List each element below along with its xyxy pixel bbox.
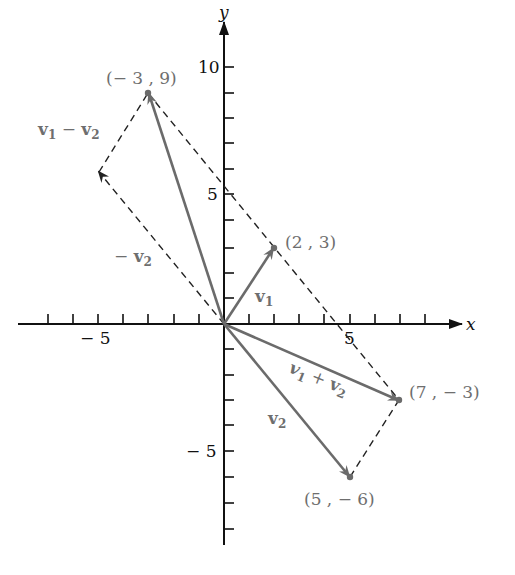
vector-v2 [224,324,349,476]
diff-side-dashed [99,93,148,172]
label-v1-minus-v2: v1 − v2 [37,119,100,142]
coord-label-v1: (2 , 3) [285,232,336,252]
point-sum-tip [396,397,402,403]
label-v1: v1 [254,286,273,309]
x-tick-label-neg5: − 5 [80,328,110,348]
vector-v1 [224,249,273,324]
vector-v1-minus-v2 [149,94,224,324]
label-v2: v2 [267,408,286,431]
vector-diagram: x y − 5 5 10 5 − 5 (− 3 , 9) (2 , 3) (7 … [0,0,515,575]
x-ticks [48,314,425,324]
y-tick-label-5: 5 [207,184,218,204]
coord-label-sum: (7 , − 3) [409,382,480,402]
x-axis-label: x [466,314,476,334]
y-tick-label-neg5: − 5 [186,441,216,461]
label-neg-v2: − v2 [114,246,152,269]
sum-side-dashed [350,400,399,477]
point-diff-tip [145,90,151,96]
point-v1-tip [271,245,277,251]
y-axis-label: y [218,2,229,22]
y-ticks [224,67,234,529]
vector-v1-plus-v2 [224,324,398,400]
coord-label-v2: (5 , − 6) [304,489,375,509]
point-v2-tip [347,474,353,480]
coord-label-diff: (− 3 , 9) [106,68,177,88]
y-tick-label-10: 10 [198,57,220,77]
